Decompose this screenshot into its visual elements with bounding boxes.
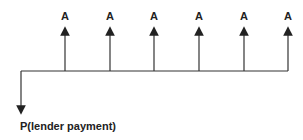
payment-label: A [278, 10, 298, 22]
payment-label: A [234, 10, 254, 22]
payment-label: A [189, 10, 209, 22]
initial-payment-label: P(lender payment) [20, 120, 116, 132]
payment-label: A [144, 10, 164, 22]
cash-flow-diagram: A A A A A A P(lender payment) [0, 0, 303, 140]
payment-label: A [100, 10, 120, 22]
payment-label: A [55, 10, 75, 22]
